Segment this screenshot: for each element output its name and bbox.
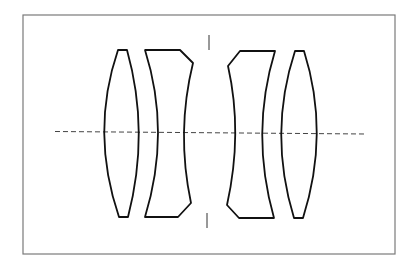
- diagram-frame: [23, 15, 395, 254]
- lens-1-biconvex: [104, 50, 139, 217]
- lens-2-meniscus: [145, 50, 193, 217]
- lens-3-meniscus: [227, 51, 275, 218]
- optical-axis: [55, 132, 365, 135]
- lens-4-biconvex: [281, 51, 317, 218]
- lens-diagram: [0, 0, 416, 263]
